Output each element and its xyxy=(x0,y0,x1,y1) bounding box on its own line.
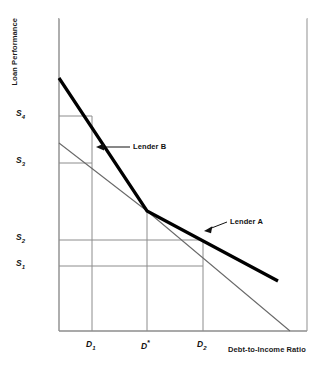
y-tick-s3: S3 xyxy=(16,155,25,167)
lender-a-curve xyxy=(59,143,290,331)
chart-figure: Loan Performance Debt-to-Income Ratio S4… xyxy=(0,0,321,370)
x-tick-d1: D1 xyxy=(86,339,95,351)
y-tick-s4: S4 xyxy=(16,108,25,120)
plot-frame xyxy=(59,18,307,331)
x-axis-title: Debt-to-Income Ratio xyxy=(228,345,306,354)
y-tick-s1: S1 xyxy=(16,258,25,270)
y-tick-s2: S2 xyxy=(16,232,25,244)
chart-plot-area xyxy=(0,0,321,370)
lender-a-label: Lender A xyxy=(230,217,263,226)
lender-b-label: Lender B xyxy=(133,142,166,151)
guide-lines xyxy=(59,116,203,331)
x-tick-dstar: D* xyxy=(141,339,150,351)
lender-a-arrow-icon xyxy=(204,222,227,233)
y-axis-title: Loan Performance xyxy=(10,18,19,85)
x-tick-d2: D2 xyxy=(197,339,206,351)
